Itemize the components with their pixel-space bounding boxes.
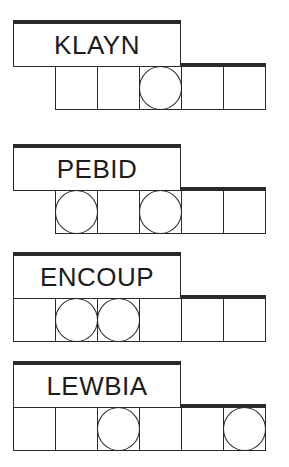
answer-cell[interactable] (97, 190, 140, 234)
answer-cell-circled[interactable] (97, 298, 140, 342)
answer-cell-circled[interactable] (223, 407, 266, 451)
answer-cell[interactable] (139, 298, 182, 342)
scrambled-word: LEWBIA (13, 361, 181, 408)
answer-cell[interactable] (223, 190, 266, 234)
answer-cell[interactable] (181, 66, 224, 110)
answer-cell[interactable] (55, 66, 98, 110)
answer-cell-circled[interactable] (55, 190, 98, 234)
answer-cell[interactable] (139, 407, 182, 451)
answer-cell[interactable] (97, 66, 140, 110)
answer-cell[interactable] (13, 298, 56, 342)
answer-cell-circled[interactable] (55, 298, 98, 342)
answer-cell[interactable] (181, 298, 224, 342)
scrambled-word: KLAYN (13, 20, 181, 67)
answer-cell[interactable] (223, 66, 266, 110)
answer-cell[interactable] (13, 407, 56, 451)
answer-cell[interactable] (223, 298, 266, 342)
answer-cell-circled[interactable] (139, 66, 182, 110)
answer-cell-circled[interactable] (97, 407, 140, 451)
answer-cell-circled[interactable] (139, 190, 182, 234)
answer-cell[interactable] (55, 407, 98, 451)
answer-cell[interactable] (181, 407, 224, 451)
answer-cell[interactable] (181, 190, 224, 234)
scrambled-word: PEBID (13, 144, 181, 191)
scrambled-word: ENCOUP (13, 252, 181, 299)
